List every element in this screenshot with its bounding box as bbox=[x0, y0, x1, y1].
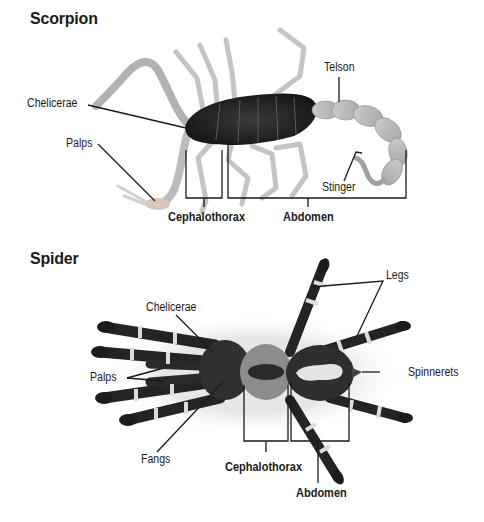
scorpion-body bbox=[185, 93, 317, 144]
spider-label-palps: Palps bbox=[90, 370, 116, 384]
spider-label-legs: Legs bbox=[386, 268, 409, 282]
scorpion-stinger bbox=[356, 158, 384, 183]
spider-title: Spider bbox=[30, 250, 79, 268]
scorpion-label-telson: Telson bbox=[324, 60, 355, 74]
spider-label-fangs: Fangs bbox=[141, 452, 170, 466]
scorpion-title: Scorpion bbox=[30, 10, 98, 28]
scorpion-label-cephalothorax: Cephalothorax bbox=[168, 210, 245, 224]
scorpion-tail bbox=[312, 100, 409, 189]
scorpion-illustration bbox=[96, 30, 409, 212]
arachnid-anatomy-diagram: Scorpion Chelicerae Palps Telson Stinger… bbox=[0, 0, 484, 522]
scorpion-label-palps: Palps bbox=[66, 136, 92, 150]
scorpion-label-abdomen: Abdomen bbox=[283, 210, 334, 224]
scorpion-label-stinger: Stinger bbox=[322, 180, 355, 194]
spider-label-abdomen: Abdomen bbox=[296, 486, 347, 500]
spider-label-spinnerets: Spinnerets bbox=[408, 365, 458, 379]
spider-label-cephalothorax: Cephalothorax bbox=[225, 460, 302, 474]
scorpion-label-chelicerae: Chelicerae bbox=[27, 96, 77, 110]
spider-label-chelicerae: Chelicerae bbox=[146, 300, 196, 314]
